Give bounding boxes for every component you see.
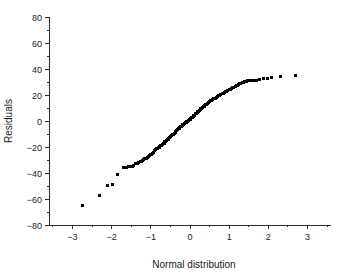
data-point	[122, 166, 125, 169]
y-tick-label: 40	[32, 65, 42, 75]
data-point	[98, 194, 101, 197]
y-tick-label: 0	[37, 117, 42, 127]
x-tick-label: 3	[305, 232, 310, 242]
x-tick-label: 0	[187, 232, 192, 242]
data-point	[258, 78, 261, 81]
x-tick-label: −3	[67, 232, 77, 242]
y-tick-label: −20	[27, 143, 42, 153]
x-tick-label: −1	[146, 232, 156, 242]
data-point	[279, 75, 282, 78]
data-point	[255, 79, 258, 82]
data-point	[106, 184, 109, 187]
data-point	[81, 204, 84, 207]
x-axis-title: Normal distribution	[152, 259, 235, 270]
x-tick-label: −2	[107, 232, 117, 242]
y-tick-labels: −80−60−40−20020406080	[27, 13, 42, 231]
data-point	[266, 77, 269, 80]
y-tick-label: 20	[32, 91, 42, 101]
qq-plot-figure: −3−2−10123 −80−60−40−20020406080 Normal …	[0, 0, 339, 273]
data-point	[111, 183, 114, 186]
data-point	[262, 77, 265, 80]
data-point	[294, 74, 297, 77]
x-tick-labels: −3−2−10123	[67, 232, 310, 242]
y-tick-label: −40	[27, 169, 42, 179]
y-tick-label: −60	[27, 195, 42, 205]
scatter-series-residual-quantiles	[81, 74, 297, 207]
data-point	[116, 173, 119, 176]
y-tick-label: −80	[27, 221, 42, 231]
x-tick-label: 2	[266, 232, 271, 242]
x-tick-label: 1	[227, 232, 232, 242]
y-tick-label: 60	[32, 39, 42, 49]
chart-canvas: −3−2−10123 −80−60−40−20020406080 Normal …	[0, 0, 339, 273]
y-axis-title: Residuals	[3, 99, 14, 143]
data-point	[270, 76, 273, 79]
y-tick-label: 80	[32, 13, 42, 23]
